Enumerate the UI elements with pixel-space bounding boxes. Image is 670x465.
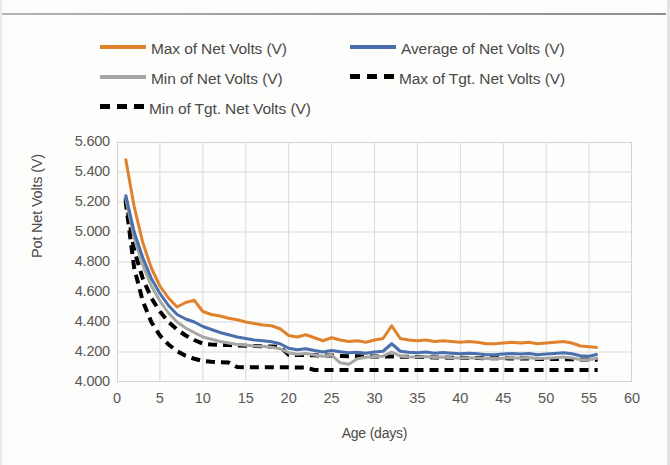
y-axis-title: Pot Net Volts (V) xyxy=(29,121,45,291)
y-tick-label: 4.400 xyxy=(54,313,110,329)
x-tick-label: 20 xyxy=(269,390,309,406)
x-tick-label: 0 xyxy=(97,390,137,406)
y-tick-label: 5.600 xyxy=(54,133,110,149)
series-line xyxy=(126,201,598,371)
x-tick-label: 35 xyxy=(397,390,437,406)
y-tick-label: 5.000 xyxy=(54,223,110,239)
data-series-layer xyxy=(117,142,632,382)
series-line xyxy=(126,198,598,360)
y-tick-label: 4.200 xyxy=(54,343,110,359)
x-tick-label: 5 xyxy=(140,390,180,406)
x-tick-label: 10 xyxy=(183,390,223,406)
x-axis-title: Age (days) xyxy=(117,425,632,441)
x-tick-label: 55 xyxy=(569,390,609,406)
chart-figure: Pot Net Volts (V) Age (days) 4.0004.2004… xyxy=(0,0,670,465)
series-line xyxy=(126,159,598,348)
y-tick-label: 5.200 xyxy=(54,193,110,209)
x-tick-label: 60 xyxy=(612,390,652,406)
scanned-page: Max of Net Volts (V)Average of Net Volts… xyxy=(0,0,670,465)
x-tick-label: 50 xyxy=(526,390,566,406)
x-tick-label: 45 xyxy=(483,390,523,406)
x-tick-label: 30 xyxy=(355,390,395,406)
x-tick-label: 40 xyxy=(440,390,480,406)
x-tick-label: 25 xyxy=(312,390,352,406)
y-tick-label: 4.600 xyxy=(54,283,110,299)
plot-area xyxy=(117,142,632,382)
y-tick-label: 4.800 xyxy=(54,253,110,269)
y-tick-label: 4.000 xyxy=(54,373,110,389)
y-tick-label: 5.400 xyxy=(54,163,110,179)
x-tick-label: 15 xyxy=(226,390,266,406)
